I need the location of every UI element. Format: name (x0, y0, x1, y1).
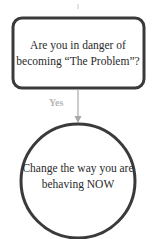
outcome-text: Change the way you are behaving NOW (20, 160, 136, 192)
yes-edge-label: Yes (49, 97, 63, 108)
flowchart-canvas (0, 0, 154, 239)
decision-text: Are you in danger of becoming “The Probl… (14, 37, 142, 69)
yes-arrowhead (75, 116, 82, 123)
